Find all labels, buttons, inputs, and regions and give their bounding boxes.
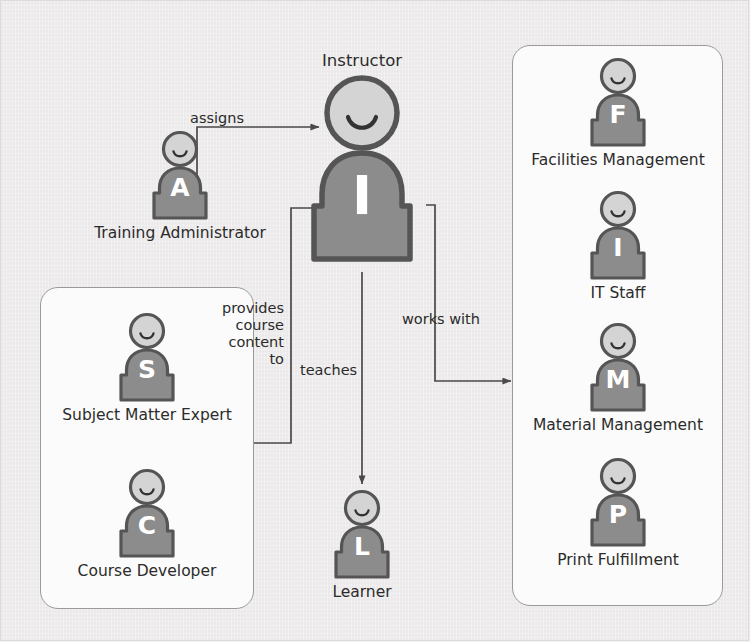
person-icon: I (587, 190, 649, 282)
actor-label: Course Developer (57, 563, 237, 580)
person-icon: A (149, 130, 211, 222)
connector-label-assigns: assigns (190, 110, 244, 127)
person-icon: I (310, 73, 414, 267)
person-icon: M (587, 322, 649, 414)
actor-initial: I (613, 233, 622, 262)
actor-subject-matter-expert[interactable]: S Subject Matter Expert (57, 312, 237, 424)
actor-label: Material Management (528, 417, 708, 434)
actor-initial: I (352, 164, 372, 227)
actor-material-management[interactable]: M Material Management (528, 322, 708, 434)
actor-initial: F (609, 100, 626, 129)
person-icon: S (116, 312, 178, 404)
actor-initial: M (606, 365, 631, 394)
actor-it-staff[interactable]: I IT Staff (528, 190, 708, 302)
person-icon: C (116, 468, 178, 560)
person-icon: P (587, 457, 649, 549)
connector-label-works-with: works with (398, 311, 484, 328)
actor-label: Training Administrator (90, 225, 270, 242)
connector-works-with (426, 205, 511, 381)
actor-initial: L (354, 532, 370, 561)
actor-learner[interactable]: L Learner (292, 489, 432, 601)
actor-label: Print Fulfillment (528, 552, 708, 569)
actor-initial: S (138, 355, 156, 384)
actor-label: Learner (292, 584, 432, 601)
actor-label: Facilities Management (528, 152, 708, 169)
actor-course-developer[interactable]: C Course Developer (57, 468, 237, 580)
actor-label: Subject Matter Expert (57, 407, 237, 424)
person-icon: F (587, 57, 649, 149)
actor-label: Instructor (292, 52, 432, 70)
actor-facilities-management[interactable]: F Facilities Management (528, 57, 708, 169)
actor-instructor[interactable]: Instructor I (292, 52, 432, 267)
actor-initial: C (138, 511, 156, 540)
connector-label-teaches: teaches (300, 362, 356, 379)
actor-print-fulfillment[interactable]: P Print Fulfillment (528, 457, 708, 569)
actor-training-administrator[interactable]: A Training Administrator (90, 130, 270, 242)
person-icon: L (331, 489, 393, 581)
actor-initial: A (170, 173, 190, 202)
actor-initial: P (609, 500, 627, 529)
diagram-canvas: assigns provides course content to teach… (0, 0, 750, 642)
actor-label: IT Staff (528, 285, 708, 302)
